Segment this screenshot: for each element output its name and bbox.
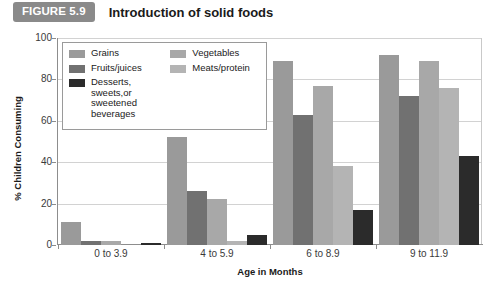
y-tick-mark-0 xyxy=(52,245,56,246)
bar-vegetables-4[interactable] xyxy=(419,61,439,245)
bar-desserts-3[interactable] xyxy=(353,210,373,245)
x-tick-label-3: 6 to 8.9 xyxy=(270,248,376,259)
y-axis: % Children Consuming 020406080100 xyxy=(0,38,52,245)
bar-fruits-1[interactable] xyxy=(81,241,101,245)
figure-title: Introduction of solid foods xyxy=(109,5,274,20)
y-tick-mark-20 xyxy=(52,204,56,205)
bar-fruits-3[interactable] xyxy=(293,115,313,245)
legend-swatch-grains xyxy=(69,50,85,58)
bar-vegetables-3[interactable] xyxy=(313,86,333,245)
figure-number-badge: FIGURE 5.9 xyxy=(13,2,95,22)
bar-grains-3[interactable] xyxy=(273,61,293,245)
bar-group-6-to-8-9 xyxy=(273,38,373,245)
legend-item-meats-protein: Meats/protein xyxy=(170,63,260,74)
legend-swatch-desserts xyxy=(69,79,85,87)
figure-header: FIGURE 5.9 Introduction of solid foods xyxy=(0,0,498,24)
legend-swatch-fruits-juices xyxy=(69,65,85,73)
bar-grains-1[interactable] xyxy=(61,222,81,245)
bar-desserts-1[interactable] xyxy=(141,243,161,245)
legend-label-fruits-juices: Fruits/juices xyxy=(91,63,142,74)
y-tick-mark-40 xyxy=(52,162,56,163)
bar-vegetables-2[interactable] xyxy=(207,199,227,245)
legend-item-fruits-juices: Fruits/juices xyxy=(69,63,170,74)
legend-label-desserts-line2: sweetened beverages xyxy=(91,98,170,119)
y-tick-label-20: 20 xyxy=(22,198,52,209)
legend-column-right: Vegetables Meats/protein xyxy=(170,48,260,123)
legend-column-left: Grains Fruits/juices Desserts, sweets,or… xyxy=(69,48,170,123)
y-tick-mark-100 xyxy=(52,38,56,39)
bar-vegetables-1[interactable] xyxy=(101,241,121,245)
bar-meats-2[interactable] xyxy=(227,241,247,245)
legend-item-vegetables: Vegetables xyxy=(170,48,260,59)
x-tick-label-4: 9 to 11.9 xyxy=(376,248,482,259)
y-tick-mark-60 xyxy=(52,121,56,122)
legend-label-vegetables: Vegetables xyxy=(192,48,239,59)
y-tick-label-0: 0 xyxy=(22,239,52,250)
y-tick-label-100: 100 xyxy=(22,32,52,43)
bar-grains-4[interactable] xyxy=(379,55,399,245)
bar-desserts-2[interactable] xyxy=(247,235,267,245)
bar-meats-4[interactable] xyxy=(439,88,459,245)
legend-label-desserts: Desserts, sweets,orsweetened beverages xyxy=(91,77,170,119)
legend-item-grains: Grains xyxy=(69,48,170,59)
x-tick-mark-1 xyxy=(58,245,59,249)
chart-legend: Grains Fruits/juices Desserts, sweets,or… xyxy=(62,42,267,130)
y-tick-label-40: 40 xyxy=(22,156,52,167)
bar-fruits-2[interactable] xyxy=(187,191,207,245)
bar-grains-2[interactable] xyxy=(167,137,187,245)
x-tick-mark-4 xyxy=(376,245,377,249)
legend-label-meats-protein: Meats/protein xyxy=(192,63,250,74)
legend-swatch-vegetables xyxy=(170,50,186,58)
x-tick-label-1: 0 to 3.9 xyxy=(58,248,164,259)
bar-group-9-to-11-9 xyxy=(379,38,479,245)
bar-desserts-4[interactable] xyxy=(459,156,479,245)
x-axis-title: Age in Months xyxy=(58,266,482,277)
x-tick-mark-2 xyxy=(164,245,165,249)
y-tick-label-60: 60 xyxy=(22,115,52,126)
legend-swatch-meats-protein xyxy=(170,65,186,73)
legend-label-desserts-line1: Desserts, sweets,or xyxy=(91,76,132,98)
y-tick-label-80: 80 xyxy=(22,73,52,84)
x-tick-mark-3 xyxy=(270,245,271,249)
x-axis-tick-labels: 0 to 3.94 to 5.96 to 8.99 to 11.9 xyxy=(58,248,482,264)
legend-label-grains: Grains xyxy=(91,48,119,59)
y-axis-title: % Children Consuming xyxy=(12,74,23,224)
x-tick-label-2: 4 to 5.9 xyxy=(164,248,270,259)
bar-fruits-4[interactable] xyxy=(399,96,419,245)
y-tick-mark-80 xyxy=(52,79,56,80)
legend-item-desserts: Desserts, sweets,orsweetened beverages xyxy=(69,77,170,119)
bar-meats-3[interactable] xyxy=(333,166,353,245)
